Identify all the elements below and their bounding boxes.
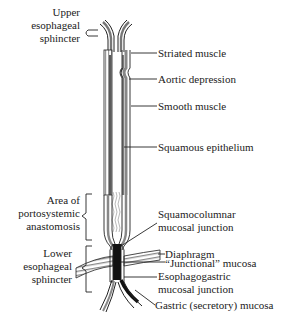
label-lower-esophageal-sphincter: Lower esophageal sphincter: [0, 247, 72, 286]
label-junctional-mucosa: “Junctional” mucosa: [165, 257, 256, 270]
label-line: Lower: [0, 247, 72, 260]
label-line: esophageal: [0, 260, 72, 273]
label-line: sphincter: [0, 273, 72, 286]
label-line: portosystemic: [0, 207, 80, 220]
label-line: mucosal junction: [158, 221, 236, 234]
gastric-outflow-shape: [100, 280, 142, 312]
label-smooth-muscle: Smooth muscle: [158, 100, 226, 113]
label-portosystemic-anastomosis: Area of portosystemic anastomosis: [0, 194, 80, 233]
right-leader-lines: [121, 53, 165, 305]
label-line: Esophagogastric: [158, 270, 233, 283]
label-line: anastomosis: [0, 220, 80, 233]
esophagus-left-wall: [104, 50, 112, 195]
label-line: sphincter: [0, 32, 80, 45]
label-aortic-depression: Aortic depression: [158, 73, 236, 86]
label-line: mucosal junction: [158, 283, 233, 296]
label-line: Area of: [0, 194, 80, 207]
label-gastric-mucosa: Gastric (secretory) mucosa: [155, 299, 274, 312]
upper-sphincter-shape: [100, 20, 132, 52]
label-squamocolumnar-junction: Squamocolumnar mucosal junction: [158, 208, 236, 234]
label-esophagogastric-junction: Esophagogastric mucosal junction: [158, 270, 233, 296]
label-striated-muscle: Striated muscle: [158, 47, 226, 60]
label-line: Upper: [0, 6, 80, 19]
left-brackets: [82, 30, 98, 292]
esophagus-diagram: Upper esophageal sphincter Area of porto…: [0, 0, 286, 315]
label-line: esophageal: [0, 19, 80, 32]
label-upper-esophageal-sphincter: Upper esophageal sphincter: [0, 6, 80, 45]
portosystemic-veins: [112, 192, 120, 232]
label-squamous-epithelium: Squamous epithelium: [158, 141, 254, 154]
esophagus-right-wall: [120, 50, 130, 195]
lower-esophagus-shape: [104, 195, 130, 250]
label-line: Squamocolumnar: [158, 208, 236, 221]
